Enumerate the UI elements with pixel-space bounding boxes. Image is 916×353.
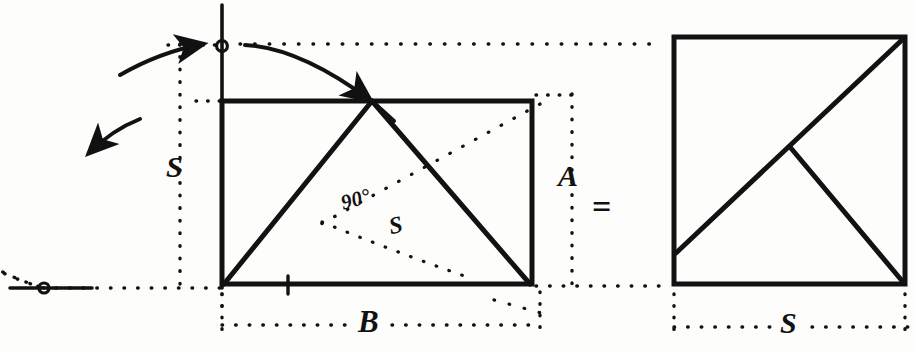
arc-inner-dotted	[0, 110, 44, 311]
rectangle-a-by-b	[222, 101, 532, 284]
rotation-arrow-right	[245, 45, 370, 100]
rotation-arrow-upper-left	[120, 44, 203, 75]
square-s-by-s	[674, 37, 905, 284]
square-secondary-leg	[790, 147, 903, 282]
label-side-s-bottom: S	[780, 308, 797, 338]
arc-outer-dotted	[0, 72, 44, 316]
middle-rectangle-group	[222, 101, 532, 294]
guide-lines	[56, 44, 912, 338]
rotation-arrow-lower-left	[89, 119, 140, 153]
label-side-a-right: A	[558, 161, 578, 191]
label-side-s-left: S	[166, 152, 183, 182]
label-equals-sign: =	[592, 190, 611, 224]
figure-svg	[0, 0, 916, 353]
point-markers	[39, 41, 227, 293]
guide-stray-cluster	[494, 300, 552, 316]
right-square-group	[674, 37, 905, 284]
construction-arcs	[0, 72, 44, 316]
triangle-right-leg	[372, 101, 530, 284]
diagram-canvas: S B A S 90° S =	[0, 0, 916, 353]
label-side-b-bottom: B	[358, 306, 379, 337]
